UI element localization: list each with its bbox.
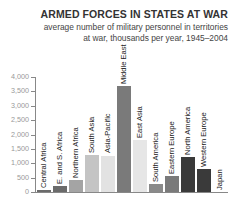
bar-label: Central Africa <box>40 142 48 188</box>
y-tick-mark <box>31 163 35 164</box>
y-tick-label: 4,000 <box>0 73 29 81</box>
bar-label: Northern Africa <box>72 127 80 178</box>
y-tick-mark <box>31 178 35 179</box>
bar-label: E. and S. Africa <box>56 132 64 184</box>
bar-label: Western Europe <box>200 112 208 167</box>
bar-label: South Asia <box>88 116 96 152</box>
y-tick-mark <box>31 192 35 193</box>
y-tick-label: 500 <box>0 174 29 182</box>
x-axis <box>35 192 228 193</box>
y-tick-mark <box>31 120 35 121</box>
bar-label: East Asia <box>136 107 144 139</box>
bar <box>117 86 131 192</box>
bar <box>37 190 51 192</box>
y-tick-label: 2,500 <box>0 116 29 124</box>
bar <box>69 180 83 192</box>
y-tick-label: 0 <box>0 188 29 196</box>
y-tick-mark <box>31 91 35 92</box>
y-tick-label: 1,000 <box>0 159 29 167</box>
bar <box>149 184 163 192</box>
bar <box>101 156 115 193</box>
y-tick-mark <box>31 149 35 150</box>
subtitle-line-1: average number of military personnel in … <box>44 22 228 33</box>
y-tick-label: 3,500 <box>0 87 29 95</box>
bar-label: Middle East <box>120 45 128 85</box>
y-tick-mark <box>31 135 35 136</box>
y-tick-mark <box>31 106 35 107</box>
y-tick-label: 1,500 <box>0 145 29 153</box>
y-axis <box>35 77 36 193</box>
bar <box>85 155 99 192</box>
bar <box>133 140 147 192</box>
bar-label: Asia-Pacific <box>104 114 112 154</box>
subtitle-line-2: at war, thousands per year, 1945–2004 <box>44 33 228 44</box>
bar <box>165 176 179 192</box>
bar-label: North America <box>184 107 192 155</box>
bar <box>197 169 211 192</box>
chart-subtitle: average number of military personnel in … <box>44 22 228 44</box>
bar-label: Japan <box>216 169 224 190</box>
bar <box>181 157 195 192</box>
bar-label: Eastern Europe <box>168 121 176 174</box>
chart-title: ARMED FORCES IN STATES AT WAR <box>41 8 228 20</box>
y-tick-mark <box>31 77 35 78</box>
y-tick-label: 3,000 <box>0 102 29 110</box>
bar-label: South America <box>152 133 160 182</box>
y-tick-label: 2,000 <box>0 131 29 139</box>
bar <box>53 186 67 192</box>
